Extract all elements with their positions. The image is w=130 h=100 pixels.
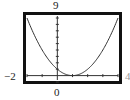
graph-window [0,0,130,100]
parabola-curve [27,18,118,76]
viewing-window-frame [25,14,121,83]
axes [27,16,118,82]
